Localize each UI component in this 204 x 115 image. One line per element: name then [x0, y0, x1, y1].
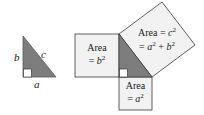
square-c-label-line1: Area = c2 [138, 26, 177, 38]
side-label-a: a [34, 78, 40, 90]
side-label-b: b [14, 51, 20, 63]
side-label-c: c [41, 48, 46, 60]
square-c-label-line2: = a2 + b2 [139, 40, 175, 52]
square-a-label-line1: Area [126, 80, 146, 91]
left-triangle: b c a [14, 36, 56, 90]
right-angle-marker [120, 69, 128, 77]
pythagorean-diagram: b c a Area = b2 Area = a2 Area = c2 = a2… [0, 0, 204, 115]
square-b: Area = b2 [75, 34, 119, 77]
right-angle-marker [24, 69, 32, 77]
square-a: Area = a2 [119, 77, 152, 110]
square-b-label-line1: Area [87, 42, 107, 53]
